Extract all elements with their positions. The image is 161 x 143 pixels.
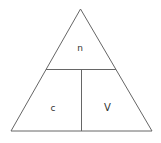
label-v: V xyxy=(104,102,111,113)
label-n: n xyxy=(77,43,83,53)
label-c: c xyxy=(51,103,56,113)
formula-triangle: n c V xyxy=(0,0,161,143)
